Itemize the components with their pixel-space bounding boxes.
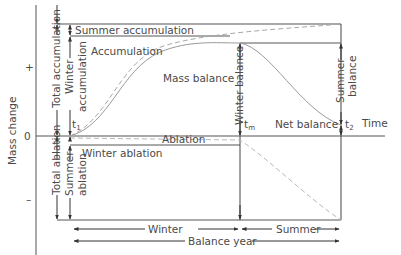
balance-year-label: Balance year	[188, 236, 257, 247]
total-accumulation-label: Total accumulation	[51, 9, 62, 108]
y-tick-minus: –	[26, 194, 31, 205]
summer-ablation-label-2: ablation	[77, 153, 88, 196]
winter-ablation-label: Winter ablation	[82, 148, 163, 159]
summer-balance-label-1: Summer	[335, 58, 346, 103]
summer-ablation-label-1: Summer	[64, 151, 75, 196]
y-tick-zero: 0	[24, 131, 31, 142]
winter-accumulation-label-1: Winter	[64, 59, 75, 94]
tm-marker: tm	[244, 119, 255, 132]
y-tick-plus: +	[25, 62, 34, 73]
summer-balance-label-2: balance	[347, 56, 358, 97]
accumulation-label: Accumulation	[91, 46, 163, 57]
summer-accumulation-label: Summer accumulation	[75, 25, 194, 36]
winter-balance-label: Winter balance	[234, 46, 245, 125]
t1-marker: t1	[72, 119, 81, 132]
mass-balance-label: Mass balance	[163, 73, 234, 84]
t2-marker: t2	[345, 119, 354, 132]
net-balance-label: Net balance	[275, 119, 338, 130]
y-axis-label: Mass change	[7, 97, 18, 165]
winter-period-label: Winter	[148, 224, 183, 235]
winter-accumulation-label-2: accumulation	[77, 41, 88, 112]
summer-period-label: Summer	[276, 224, 321, 235]
ablation-label: Ablation	[162, 134, 205, 145]
total-ablation-label: Total ablation	[51, 125, 62, 195]
x-axis-label: Time	[362, 118, 388, 129]
